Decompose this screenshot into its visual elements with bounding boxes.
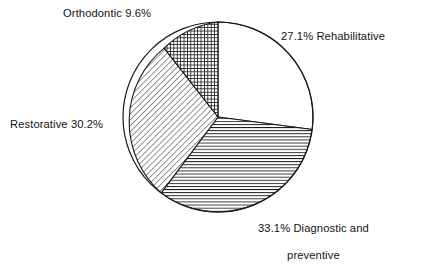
slice-label-restorative: Restorative 30.2%: [10, 118, 103, 132]
slice-label-diagnostic-line1: 33.1% Diagnostic and: [258, 222, 369, 236]
slice-label-orthodontic: Orthodontic 9.6%: [63, 7, 151, 21]
slice-label-diagnostic-and-preventive: 33.1% Diagnostic and preventive: [258, 208, 369, 265]
slice-label-diagnostic-line2: preventive: [258, 249, 369, 263]
slice-label-rehabilitative: 27.1% Rehabilitative: [281, 30, 385, 44]
